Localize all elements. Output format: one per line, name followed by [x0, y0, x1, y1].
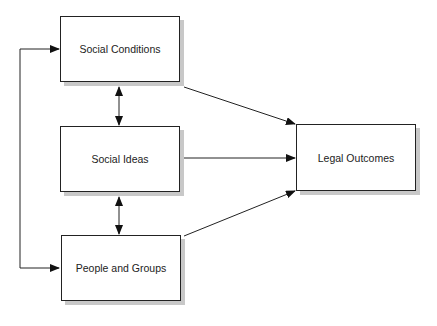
edge-people-legal — [184, 191, 295, 236]
edge-conditions-legal — [184, 87, 295, 124]
node-label: People and Groups — [76, 262, 166, 274]
node-social-conditions: Social Conditions — [60, 16, 180, 82]
diagram-canvas: Social Conditions Social Ideas People an… — [0, 0, 437, 326]
edge-conditions-people-loop — [20, 49, 59, 268]
node-label: Social Conditions — [79, 43, 160, 55]
node-legal-outcomes: Legal Outcomes — [296, 124, 416, 191]
node-people-and-groups: People and Groups — [61, 235, 181, 301]
node-social-ideas: Social Ideas — [60, 126, 180, 192]
node-label: Social Ideas — [91, 153, 148, 165]
node-label: Legal Outcomes — [318, 152, 394, 164]
